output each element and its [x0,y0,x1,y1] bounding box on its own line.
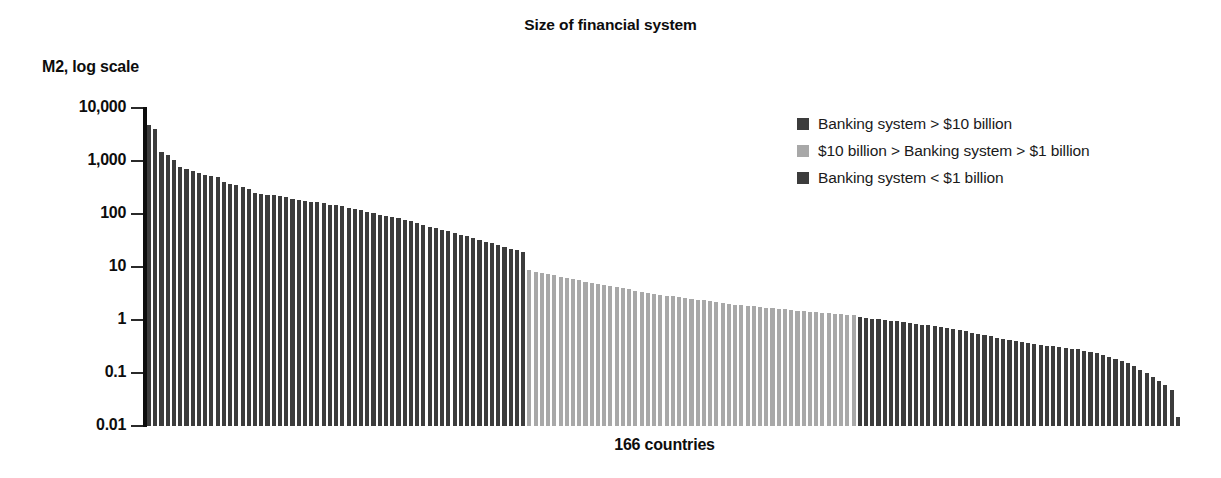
bar [951,329,955,426]
y-axis-tick-label: 100 [0,204,126,222]
bar [602,285,606,426]
bar [1157,381,1161,426]
bar [428,227,432,426]
bar [484,242,488,426]
bar [328,205,332,426]
bar [147,125,151,426]
bar [153,129,157,426]
legend-swatch-icon [797,172,809,184]
bar [303,201,307,426]
bar [864,318,868,426]
bar [739,305,743,426]
bar [696,300,700,426]
bar [852,315,856,426]
bar [640,292,644,427]
bar [995,338,999,426]
bar [421,225,425,426]
legend-item[interactable]: $10 billion > Banking system > $1 billio… [797,137,1090,164]
bar [1176,417,1180,426]
y-axis-tick-mark [131,319,143,321]
bar [976,334,980,426]
bar [989,336,993,426]
bar [571,279,575,426]
bar [434,228,438,426]
bar [702,300,706,426]
bar [465,236,469,426]
bar [527,270,531,426]
legend-item[interactable]: Banking system > $10 billion [797,110,1090,137]
bar [184,169,188,426]
bar [683,298,687,426]
bar [390,217,394,426]
bar [1101,355,1105,426]
bar [577,280,581,426]
bar [459,235,463,426]
bar [1095,353,1099,426]
bar [1170,390,1174,426]
y-axis-tick-mark [131,266,143,268]
bar [646,293,650,426]
bar [559,277,563,426]
bar [627,289,631,426]
legend-label: Banking system > $10 billion [818,115,1012,133]
x-axis-label: 166 countries [147,436,1182,454]
bar [820,313,824,426]
bar [814,312,818,426]
bar [178,167,182,426]
bar [1088,352,1092,426]
bar [216,177,220,426]
bar [658,295,662,426]
bar [733,305,737,426]
chart-title: Size of financial system [0,16,1221,34]
bar [172,160,176,426]
bar [272,195,276,426]
bar [908,323,912,426]
bar [191,171,195,426]
bar [708,301,712,426]
bar [334,205,338,426]
bar [565,278,569,426]
bar [309,202,313,426]
bar [278,196,282,426]
bar [159,152,163,426]
chart-legend: Banking system > $10 billion$10 billion … [797,110,1090,191]
y-axis-tick-mark [131,425,143,427]
bar [1026,343,1030,426]
bar [409,221,413,426]
bar [615,287,619,426]
bar [982,335,986,426]
bar [1163,385,1167,426]
bar [540,273,544,426]
bar [714,302,718,426]
bar [845,315,849,426]
bar [546,274,550,426]
bar [396,218,400,426]
bar [876,319,880,426]
bar [471,238,475,426]
bar [371,213,375,426]
bar [241,187,245,426]
bar [608,286,612,426]
bar [209,176,213,426]
bar [633,291,637,426]
bar [870,319,874,426]
bar [1076,349,1080,426]
bar [1145,373,1149,426]
bar [833,314,837,426]
bar [783,309,787,426]
bar [322,203,326,426]
bar [365,212,369,426]
bar [1113,359,1117,426]
legend-item[interactable]: Banking system < $1 billion [797,164,1090,191]
bar [284,197,288,426]
bar [827,313,831,426]
bar [964,331,968,426]
y-axis-tick-mark [131,213,143,215]
bar [515,250,519,426]
bar [583,282,587,426]
bar [477,240,481,426]
bar [945,328,949,426]
bar [802,311,806,426]
bar [552,275,556,426]
bar [234,185,238,426]
